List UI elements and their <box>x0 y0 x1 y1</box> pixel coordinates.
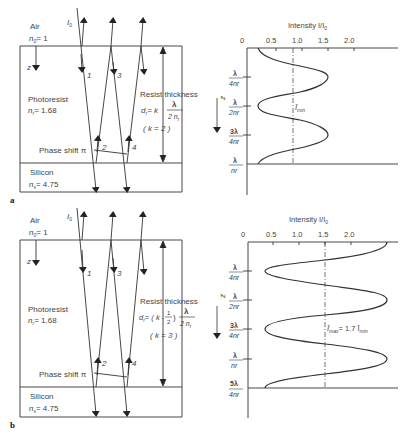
svg-text:λ: λ <box>233 70 237 77</box>
chart-b-intensity-curve <box>265 242 387 388</box>
resist-index: nr= 1.68 <box>28 316 57 326</box>
svg-text:1.5: 1.5 <box>318 230 328 239</box>
phase-shift-leader <box>94 150 127 154</box>
k-value: ( k = 2 ) <box>143 124 171 133</box>
svg-text:λ: λ <box>233 293 237 300</box>
incident-ray <box>77 208 96 414</box>
chart-a-yticks: λ 4nr λ 2nr 3λ 4nr λ nr <box>228 70 243 174</box>
svg-text:4nr: 4nr <box>229 391 240 398</box>
silicon-label: Silicon <box>30 168 54 177</box>
z-label: z <box>26 63 31 72</box>
svg-text:λ: λ <box>233 99 237 106</box>
svg-text:0.5: 0.5 <box>266 230 276 239</box>
air-index: n0= 1 <box>29 34 48 44</box>
thickness-denominator: 2 nr <box>167 113 180 122</box>
svg-text:0: 0 <box>240 36 244 45</box>
phase-shift-leader <box>94 373 127 377</box>
ray-label-4: 4 <box>132 143 137 152</box>
ray-label-1: 1 <box>87 269 91 278</box>
svg-text:): ) <box>173 313 176 322</box>
resist-thickness-title: Resist thickness <box>140 90 198 99</box>
ray-label-2: 2 <box>101 359 107 368</box>
silicon-index: ns= 4.75 <box>29 180 59 190</box>
thickness-denominator: 2 nr <box>179 320 192 329</box>
chart-a-imin-annotation: Īmin <box>295 103 305 113</box>
phase-shift-label: Phase shift π <box>39 370 87 379</box>
resist-thickness-title: Resist thickness <box>140 297 198 306</box>
svg-text:λ: λ <box>233 157 237 164</box>
thickness-numerator: λ <box>184 307 189 316</box>
panel-label-b: b <box>10 420 15 430</box>
svg-text:3λ: 3λ <box>230 322 238 329</box>
panel-a-chart: Intensity I/I0 0 0.5 1.0 1.5 2.0 z Īmin … <box>217 21 398 195</box>
ray-label-3: 3 <box>117 71 122 80</box>
air-label: Air <box>30 216 40 225</box>
chart-b-xlabel: Intensity I/I0 <box>289 215 328 225</box>
chart-b-z-label: z <box>219 293 228 298</box>
svg-text:2.0: 2.0 <box>344 230 354 239</box>
air-index: n0= 1 <box>29 228 48 238</box>
svg-text:2nr: 2nr <box>228 303 240 310</box>
incident-label: I0 <box>67 212 72 222</box>
chart-b-xticks: 0 0.5 1.0 1.5 2.0 <box>241 230 354 239</box>
svg-text:2: 2 <box>167 319 171 325</box>
svg-text:2nr: 2nr <box>228 109 240 116</box>
silicon-index: ns= 4.75 <box>29 404 59 414</box>
svg-text:1: 1 <box>167 310 171 316</box>
svg-text:3λ: 3λ <box>230 128 238 135</box>
svg-text:4nr: 4nr <box>229 138 240 145</box>
svg-text:4nr: 4nr <box>229 80 240 87</box>
svg-text:5λ: 5λ <box>230 380 238 387</box>
svg-text:nr: nr <box>231 362 238 369</box>
ray-label-2: 2 <box>101 143 107 152</box>
svg-text:λ: λ <box>233 264 237 271</box>
panel-b-chart: Intensity I/I0 0 0.5 1.0 1.5 2.0 z Īmax=… <box>217 215 398 418</box>
svg-text:0.5: 0.5 <box>266 36 276 45</box>
chart-a-xticks: 0 0.5 1.0 1.5 2.0 <box>240 36 354 45</box>
panel-label-a: a <box>10 195 15 205</box>
chart-a-xlabel: Intensity I/I0 <box>288 21 327 31</box>
chart-b-yticks: λ 4nr λ 2nr 3λ 4nr λ nr 5λ 4nr <box>228 264 243 398</box>
svg-text:1.0: 1.0 <box>292 36 302 45</box>
chart-a-z-label: z <box>219 95 228 100</box>
silicon-label: Silicon <box>30 392 54 401</box>
svg-text:2.0: 2.0 <box>344 36 354 45</box>
ray-label-1: 1 <box>87 71 91 80</box>
svg-text:0: 0 <box>241 230 245 239</box>
ray-label-3: 3 <box>117 269 122 278</box>
svg-text:1.5: 1.5 <box>318 36 328 45</box>
thickness-lhs: dr= k <box>141 106 159 116</box>
incident-label: I0 <box>67 18 72 28</box>
photoresist-label: Photoresist <box>28 305 69 314</box>
svg-text:4nr: 4nr <box>229 332 240 339</box>
svg-text:4nr: 4nr <box>229 274 240 281</box>
svg-text:nr: nr <box>231 167 238 174</box>
chart-b-imax-annotation: Īmax= 1.7 Īmin <box>327 324 368 334</box>
resist-index: nr= 1.68 <box>28 106 57 116</box>
svg-text:1.0: 1.0 <box>292 230 302 239</box>
photoresist-label: Photoresist <box>28 95 69 104</box>
panel-b-labels: Air n0= 1 z I0 1 2 3 4 Photoresist nr= 1… <box>10 212 198 430</box>
svg-text:λ: λ <box>233 352 237 359</box>
air-label: Air <box>30 22 40 31</box>
resist-layer-box <box>20 240 182 417</box>
ray-label-4: 4 <box>132 359 137 368</box>
thickness-numerator: λ <box>172 100 177 109</box>
thickness-lhs: dr= ( k - <box>139 313 165 323</box>
phase-shift-label: Phase shift π <box>39 146 87 155</box>
k-value: ( k = 3 ) <box>150 331 178 340</box>
z-label: z <box>26 257 31 266</box>
